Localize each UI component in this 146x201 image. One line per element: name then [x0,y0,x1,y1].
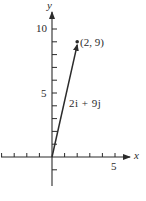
vector-label: 2i + 9j [69,98,101,109]
y-tick-label-10: 10 [36,23,47,34]
x-axis-ticks [2,153,115,157]
point-marker [75,40,79,44]
vector-diagram: y x 10 5 5 (2, 9) 2i + 9j [0,0,146,201]
point-label: (2, 9) [80,37,104,48]
y-axis-label: y [47,0,52,11]
x-tick-label-5: 5 [111,161,117,172]
x-axis-label: x [134,150,139,161]
y-tick-label-5: 5 [41,88,47,99]
